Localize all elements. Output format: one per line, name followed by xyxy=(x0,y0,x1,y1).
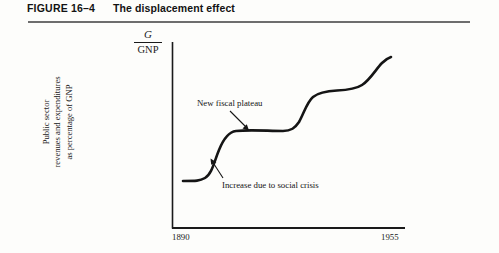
y-axis-ratio-denominator: GNP xyxy=(128,43,168,55)
y-axis-ratio-numerator: G xyxy=(128,29,168,42)
annotation-new-fiscal-plateau: New fiscal plateau xyxy=(197,98,262,108)
y-axis-ratio-label: G GNP xyxy=(128,29,168,55)
figure-container: FIGURE 16–4 The displacement effect G GN… xyxy=(0,0,499,253)
y-axis-caption-line-1: Public sector xyxy=(41,42,52,202)
y-axis-caption: Public sector revenues and expenditures … xyxy=(41,42,75,202)
chart-plot-area: G GNP Public sector revenues and expendi… xyxy=(0,0,499,253)
x-axis-tick-end: 1955 xyxy=(381,232,399,242)
x-axis-tick-start: 1890 xyxy=(172,232,190,242)
y-axis-caption-line-2: revenues and expenditures xyxy=(52,42,63,202)
plateau-annotation-arrow-line xyxy=(230,111,247,128)
annotation-increase-social-crisis: Increase due to social crisis xyxy=(222,180,319,190)
y-axis-caption-line-3: as percentage of GNP xyxy=(64,42,75,202)
